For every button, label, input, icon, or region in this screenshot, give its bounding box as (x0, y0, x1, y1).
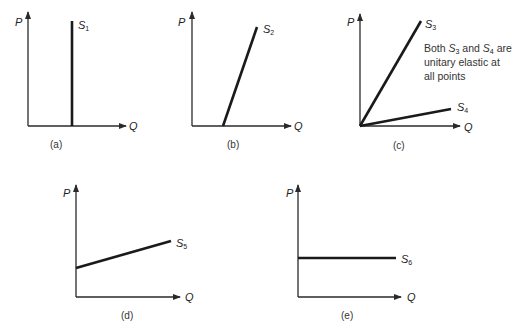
panel-a: P Q S1 (a) (15, 12, 138, 150)
caption-c: (c) (393, 140, 405, 151)
p-axis-label: P (178, 16, 186, 28)
p-axis-label: P (286, 187, 294, 199)
supply-curve-s5 (76, 241, 171, 268)
q-axis-label: Q (185, 291, 194, 303)
supply-elasticity-diagram: P Q S1 (a) P Q S2 (b) P Q S3 S4 Both S3 … (0, 0, 528, 330)
caption-e: (e) (341, 310, 353, 321)
q-axis-label: Q (294, 120, 303, 132)
supply-curve-s3 (360, 21, 421, 126)
s2-label: S2 (263, 23, 274, 36)
caption-d: (d) (121, 310, 133, 321)
panel-e: P Q S6 (e) (286, 185, 416, 321)
caption-b: (b) (227, 139, 239, 150)
s4-label: S4 (457, 101, 468, 114)
elasticity-note-line3: all points (424, 70, 465, 82)
p-axis-label: P (63, 187, 71, 199)
elasticity-note-line1: Both S3 and S4 are (424, 42, 512, 55)
p-axis-label: P (15, 16, 23, 28)
panel-b: P Q S2 (b) (178, 12, 303, 150)
p-axis-label: P (347, 16, 355, 28)
q-axis-label: Q (407, 291, 416, 303)
s3-label: S3 (425, 18, 436, 31)
q-axis-label: Q (129, 120, 138, 132)
panel-c: P Q S3 S4 Both S3 and S4 are unitary ela… (347, 14, 512, 151)
supply-curve-s2 (223, 27, 257, 126)
s5-label: S5 (176, 237, 187, 250)
caption-a: (a) (50, 139, 62, 150)
s1-label: S1 (78, 19, 89, 32)
panel-d: P Q S5 (d) (63, 185, 194, 321)
s6-label: S6 (401, 253, 412, 266)
q-axis-label: Q (464, 121, 473, 133)
elasticity-note-line2: unitary elastic at (424, 56, 500, 68)
supply-curve-s4 (360, 109, 451, 126)
